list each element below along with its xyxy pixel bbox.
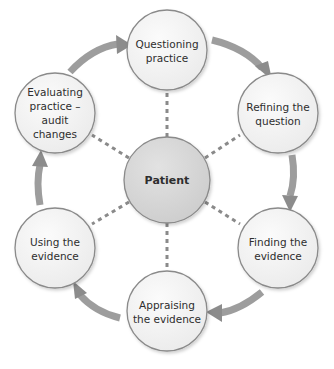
node-label-line: evidence (31, 250, 79, 262)
node-using-the-evidence: Using the evidence (15, 208, 95, 288)
node-label-line: Questioning (135, 38, 198, 50)
node-label-line: Finding the (249, 236, 307, 248)
node-label-line: practice (146, 52, 188, 64)
center-label: Patient (145, 174, 190, 187)
connector-refining (205, 135, 240, 158)
arrow-head-icon (206, 304, 222, 322)
node-label-line: Appraising (139, 299, 195, 311)
connector-finding (205, 202, 240, 224)
node-finding-the-evidence: Finding the evidence (238, 208, 318, 288)
node-questioning-practice: Questioning practice (127, 10, 207, 90)
node-label-line: evidence (254, 250, 302, 262)
node-label-line: audit (42, 114, 69, 126)
node-refining-the-question: Refining the question (238, 73, 318, 153)
arrow-finding-to-appraising (220, 292, 262, 313)
node-label-line: question (255, 115, 300, 127)
arrow-evaluating-to-questioning (70, 44, 118, 72)
connector-using (92, 202, 129, 224)
connector-evaluating (92, 135, 129, 158)
evidence-cycle-diagram: Patient Questioning practice Refining th… (0, 0, 334, 369)
node-label-line: Refining the (246, 101, 309, 113)
node-label-line: Evaluating (27, 86, 83, 98)
arrow-refining-to-finding (290, 155, 294, 196)
arrow-questioning-to-refining (212, 40, 262, 68)
arrow-appraising-to-using (80, 295, 120, 318)
arrow-head-icon (32, 150, 48, 167)
node-label-line: changes (33, 128, 77, 140)
node-label-line: Using the (30, 236, 80, 248)
node-label-line: the evidence (133, 313, 201, 325)
node-appraising-the-evidence: Appraising the evidence (127, 271, 207, 351)
node-label-line: practice – (29, 100, 80, 112)
node-evaluating-practice: Evaluating practice – audit changes (15, 73, 95, 153)
arrow-using-to-evaluating (38, 165, 40, 205)
center-node-patient: Patient (124, 137, 210, 223)
